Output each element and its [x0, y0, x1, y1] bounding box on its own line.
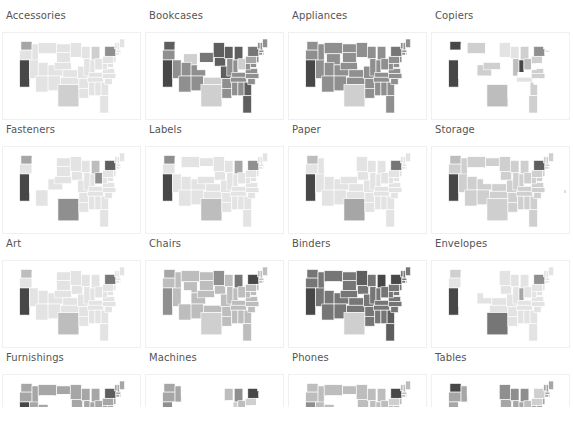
state-ky[interactable] — [89, 186, 103, 191]
state-mn[interactable] — [70, 271, 81, 286]
us-choropleth-map[interactable] — [295, 39, 420, 113]
state-ky[interactable] — [518, 186, 532, 191]
state-nh[interactable] — [403, 271, 405, 278]
state-ne[interactable] — [483, 176, 500, 183]
state-mi[interactable] — [377, 46, 386, 60]
state-ct[interactable] — [545, 53, 549, 55]
state-me[interactable] — [406, 267, 411, 276]
state-fl[interactable] — [100, 96, 109, 113]
state-or[interactable] — [163, 278, 175, 288]
state-mi[interactable] — [520, 160, 529, 174]
state-tx[interactable] — [201, 199, 222, 221]
state-ri[interactable] — [263, 53, 264, 55]
state-sd[interactable] — [200, 395, 214, 405]
state-in[interactable] — [519, 288, 524, 300]
state-al[interactable] — [238, 82, 244, 96]
state-oh[interactable] — [95, 287, 102, 298]
state-wi[interactable] — [224, 46, 233, 58]
state-ca[interactable] — [163, 174, 173, 201]
state-la[interactable] — [79, 202, 89, 212]
state-me[interactable] — [406, 381, 411, 390]
state-tx[interactable] — [58, 85, 79, 107]
state-mn[interactable] — [499, 385, 510, 400]
state-nj[interactable] — [256, 398, 258, 404]
state-ky[interactable] — [232, 186, 246, 191]
state-al[interactable] — [524, 310, 530, 324]
state-pa[interactable] — [531, 398, 542, 405]
state-ny[interactable] — [391, 388, 402, 398]
state-sc[interactable] — [248, 78, 255, 84]
state-pa[interactable] — [245, 170, 256, 177]
state-vt[interactable] — [258, 271, 260, 277]
state-ny[interactable] — [248, 388, 259, 398]
state-me[interactable] — [120, 381, 125, 390]
state-ri[interactable] — [406, 167, 407, 169]
state-id[interactable] — [461, 272, 467, 291]
state-ma[interactable] — [116, 50, 121, 52]
state-id[interactable] — [318, 386, 324, 405]
state-or[interactable] — [449, 278, 461, 288]
state-ms[interactable] — [232, 310, 238, 324]
state-ny[interactable] — [105, 46, 116, 56]
state-id[interactable] — [32, 386, 38, 405]
map-frame[interactable] — [288, 32, 427, 120]
state-or[interactable] — [449, 164, 461, 174]
state-ut[interactable] — [38, 290, 48, 304]
state-ut[interactable] — [324, 404, 334, 407]
state-nh[interactable] — [546, 385, 548, 392]
state-wa[interactable] — [21, 41, 32, 50]
state-id[interactable] — [175, 386, 181, 405]
state-wv[interactable] — [531, 64, 536, 70]
state-sd[interactable] — [57, 281, 71, 291]
state-ct[interactable] — [545, 395, 549, 397]
state-fl[interactable] — [386, 324, 395, 341]
state-ne[interactable] — [340, 62, 357, 69]
state-in[interactable] — [233, 288, 238, 300]
state-nv[interactable] — [459, 402, 468, 407]
us-choropleth-map[interactable] — [9, 267, 134, 341]
state-in[interactable] — [90, 402, 95, 407]
state-ca[interactable] — [306, 402, 316, 407]
state-wa[interactable] — [450, 269, 461, 278]
state-ny[interactable] — [391, 274, 402, 284]
state-nh[interactable] — [403, 157, 405, 164]
state-ne[interactable] — [197, 176, 214, 183]
state-fl[interactable] — [100, 324, 109, 341]
state-mt[interactable] — [38, 157, 57, 168]
state-ia[interactable] — [501, 286, 512, 295]
state-md[interactable] — [250, 406, 256, 407]
state-mi[interactable] — [234, 46, 243, 60]
state-nh[interactable] — [117, 385, 119, 392]
state-me[interactable] — [120, 267, 125, 276]
us-choropleth-map[interactable] — [152, 267, 277, 341]
state-ct[interactable] — [545, 281, 549, 283]
state-id[interactable] — [318, 272, 324, 291]
state-pa[interactable] — [102, 56, 113, 63]
state-ri[interactable] — [406, 53, 407, 55]
us-choropleth-map[interactable] — [152, 381, 277, 407]
state-ct[interactable] — [116, 53, 120, 55]
state-ky[interactable] — [375, 300, 389, 305]
state-nc[interactable] — [388, 302, 402, 307]
state-mt[interactable] — [467, 157, 486, 168]
state-nj[interactable] — [113, 284, 115, 290]
state-nh[interactable] — [546, 157, 548, 164]
state-or[interactable] — [20, 278, 32, 288]
state-ut[interactable] — [324, 62, 334, 76]
map-frame[interactable] — [2, 374, 141, 407]
state-nj[interactable] — [113, 398, 115, 404]
state-ct[interactable] — [402, 167, 406, 169]
state-sc[interactable] — [534, 78, 541, 84]
state-wa[interactable] — [21, 155, 32, 164]
state-mt[interactable] — [181, 271, 200, 282]
us-choropleth-map[interactable] — [9, 39, 134, 113]
state-nd[interactable] — [486, 158, 500, 167]
map-frame[interactable] — [145, 374, 284, 407]
state-pa[interactable] — [102, 284, 113, 291]
state-tx[interactable] — [344, 313, 365, 335]
state-md[interactable] — [250, 64, 256, 68]
state-md[interactable] — [107, 292, 113, 296]
map-frame[interactable] — [145, 260, 284, 348]
state-ok[interactable] — [60, 77, 79, 84]
state-ca[interactable] — [306, 60, 316, 87]
